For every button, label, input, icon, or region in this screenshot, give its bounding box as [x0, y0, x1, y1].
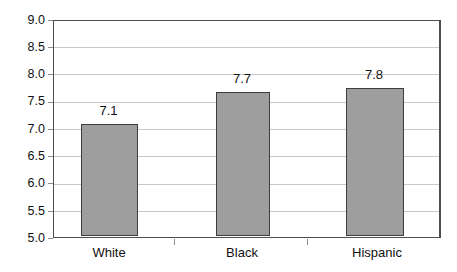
x-axis-tick-mark	[174, 239, 175, 245]
bar-white[interactable]	[81, 124, 138, 236]
x-axis-tick-mark	[307, 239, 308, 245]
bar-value-white: 7.1	[80, 104, 137, 118]
y-axis-tick-label: 7.5	[0, 95, 45, 107]
bar-hispanic[interactable]	[346, 88, 404, 236]
plot-area	[53, 20, 441, 238]
gridline	[54, 47, 439, 48]
bar-chart: 9.0 8.5 8.0 7.5 7.0 6.5 6.0 5.5 5.0 7.1 …	[0, 0, 457, 272]
bar-value-black: 7.7	[215, 72, 269, 86]
bar-value-hispanic: 7.8	[345, 68, 403, 82]
y-axis-tick-label: 6.5	[0, 150, 45, 162]
y-axis-tick-label: 5.0	[0, 232, 45, 244]
x-axis-category-label-black: Black	[207, 246, 277, 260]
y-axis-tick-label: 6.0	[0, 177, 45, 189]
y-axis-tick-label: 8.0	[0, 68, 45, 80]
y-axis-tick-label: 5.5	[0, 205, 45, 217]
bar-black[interactable]	[216, 92, 270, 236]
y-axis: 9.0 8.5 8.0 7.5 7.0 6.5 6.0 5.5 5.0	[0, 20, 49, 238]
y-axis-tick-label: 7.0	[0, 123, 45, 135]
x-axis-category-label-hispanic: Hispanic	[339, 246, 415, 260]
y-axis-tick-mark	[48, 238, 53, 239]
x-axis-category-label-white: White	[74, 246, 144, 260]
y-axis-tick-label: 8.5	[0, 41, 45, 53]
y-axis-tick-label: 9.0	[0, 14, 45, 26]
